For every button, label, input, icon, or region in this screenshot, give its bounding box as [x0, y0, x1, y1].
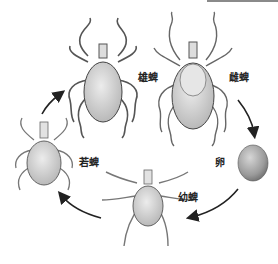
nymph-tick-head — [40, 122, 48, 138]
label-nymph-tick: 若蜱 — [79, 154, 99, 169]
arrow-female-to-egg — [238, 100, 254, 133]
label-male-tick: 雄蜱 — [138, 69, 158, 84]
label-larva-tick: 幼蜱 — [178, 189, 198, 204]
egg-illustration — [238, 145, 268, 181]
larva-tick-body — [133, 186, 163, 226]
male-tick-body — [84, 62, 122, 122]
arrow-nymph-to-male — [42, 94, 60, 114]
arrow-larva-to-nymph — [62, 196, 101, 218]
tick-life-cycle-diagram: 雄蜱 雌蜱 卵 幼蜱 若蜱 — [0, 0, 278, 264]
female-tick-head — [189, 42, 197, 58]
diagram-canvas — [0, 0, 278, 264]
label-egg: 卵 — [215, 154, 225, 169]
larva-tick-head — [144, 170, 152, 184]
male-tick-head — [99, 44, 107, 58]
nymph-tick-body — [27, 141, 61, 185]
female-tick-scutum — [180, 64, 206, 96]
label-female-tick: 雌蜱 — [229, 69, 249, 84]
arrow-egg-to-larva — [192, 189, 238, 217]
